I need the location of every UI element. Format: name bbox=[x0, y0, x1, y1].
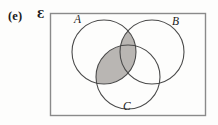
venn-diagram-canvas bbox=[0, 0, 218, 125]
set-label-b: B bbox=[172, 16, 179, 28]
part-label: (e) bbox=[8, 10, 22, 23]
venn-diagram-figure: (e) Ɛ A B C bbox=[0, 0, 218, 125]
universal-set-symbol: Ɛ bbox=[37, 7, 44, 21]
set-label-c: C bbox=[123, 101, 131, 113]
set-label-a: A bbox=[74, 14, 81, 26]
